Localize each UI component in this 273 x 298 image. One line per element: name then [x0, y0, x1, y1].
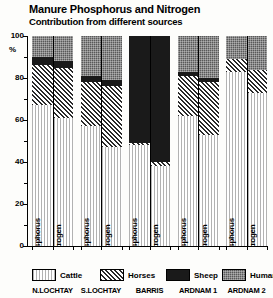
plot-area: 020406080100 % PhosphorusNitrogenPhospho…: [32, 36, 267, 246]
x-axis-line: [27, 246, 268, 247]
bar-group-s-lochtay[interactable]: PhosphorusNitrogen: [81, 36, 122, 246]
y-minor-tick-30: [24, 183, 28, 184]
segment-cattle: [102, 147, 122, 246]
x-tick: [150, 246, 151, 250]
x-tick: [73, 246, 74, 250]
segment-humans: [178, 36, 199, 72]
x-tick: [247, 246, 248, 250]
segment-horses: [129, 143, 150, 145]
segment-humans: [102, 36, 122, 80]
segment-horses: [102, 86, 122, 147]
x-tick: [81, 246, 82, 250]
segment-sheep: [32, 57, 53, 65]
legend-swatch-horses: [100, 269, 124, 281]
chart-title: Manure Phosphorus and Nitrogen: [29, 3, 200, 15]
y-tick-label-60: 60: [0, 116, 24, 124]
segment-horses: [81, 82, 102, 126]
segment-humans: [226, 36, 247, 59]
y-tick-label-80: 80: [0, 74, 24, 82]
bar-group-ardnam-2[interactable]: PhosphorusNitrogen: [226, 36, 267, 246]
chart-legend: CattleHorsesSheepHumans: [32, 268, 267, 284]
legend-label-sheep: Sheep: [194, 271, 218, 280]
x-tick: [129, 246, 130, 250]
legend-swatch-sheep: [166, 269, 190, 281]
segment-horses: [54, 68, 74, 118]
chart-subtitle: Contribution from different sources: [29, 16, 182, 27]
segment-horses: [178, 76, 199, 116]
x-tick: [226, 246, 227, 250]
x-tick: [32, 246, 33, 250]
segment-humans: [54, 36, 74, 61]
y-tick-label-100: 100: [0, 32, 24, 40]
y-minor-tick-50: [24, 141, 28, 142]
x-tick: [170, 246, 171, 250]
bar-s-lochtay-nitrogen[interactable]: Nitrogen: [101, 36, 122, 246]
legend-swatch-humans: [222, 269, 246, 281]
y-minor-tick-90: [24, 57, 28, 58]
bar-ardnam-1-phosphorus[interactable]: Phosphorus: [178, 36, 199, 246]
y-minor-tick-10: [24, 225, 28, 226]
x-tick: [178, 246, 179, 250]
segment-humans: [199, 36, 219, 78]
segment-cattle: [81, 126, 102, 246]
bar-group-ardnam-1[interactable]: PhosphorusNitrogen: [178, 36, 219, 246]
segment-cattle: [199, 135, 219, 246]
segment-humans: [81, 36, 102, 76]
x-axis-label-ardnam-1: ARDNAM 1: [172, 286, 225, 295]
segment-sheep: [102, 80, 122, 86]
segment-horses: [151, 162, 171, 166]
x-tick: [219, 246, 220, 250]
x-tick: [122, 246, 123, 250]
legend-item-horses[interactable]: Horses: [100, 268, 155, 282]
segment-sheep: [81, 76, 102, 82]
x-tick: [101, 246, 102, 250]
x-tick: [198, 246, 199, 250]
segment-cattle: [32, 105, 53, 246]
segment-horses: [226, 59, 247, 72]
legend-item-humans[interactable]: Humans: [222, 268, 273, 282]
legend-swatch-cattle: [32, 269, 56, 281]
y-minor-tick-70: [24, 99, 28, 100]
segment-cattle: [226, 72, 247, 246]
legend-label-horses: Horses: [128, 271, 155, 280]
x-axis-label-ardnam-2: ARDNAM 2: [220, 286, 273, 295]
segment-sheep: [178, 72, 199, 76]
segment-sheep: [199, 78, 219, 82]
legend-label-cattle: Cattle: [60, 271, 82, 280]
segment-humans: [32, 36, 53, 57]
bar-n-lochtay-phosphorus[interactable]: Phosphorus: [32, 36, 53, 246]
x-axis-label-n-lochtay: N.LOCHTAY: [26, 286, 79, 295]
segment-sheep: [54, 61, 74, 67]
legend-item-cattle[interactable]: Cattle: [32, 268, 82, 282]
x-tick: [53, 246, 54, 250]
bar-s-lochtay-phosphorus[interactable]: Phosphorus: [81, 36, 102, 246]
legend-item-sheep[interactable]: Sheep: [166, 268, 218, 282]
bar-ardnam-2-phosphorus[interactable]: Phosphorus: [226, 36, 247, 246]
x-axis-label-s-lochtay: S.LOCHTAY: [75, 286, 128, 295]
segment-cattle: [178, 116, 199, 246]
segment-sheep: [151, 36, 171, 162]
bar-barris-nitrogen[interactable]: Nitrogen: [150, 36, 171, 246]
segment-horses: [199, 82, 219, 135]
bar-ardnam-2-nitrogen[interactable]: Nitrogen: [247, 36, 268, 246]
segment-cattle: [151, 166, 171, 246]
x-axis-label-barris: BARRIS: [123, 286, 176, 295]
segment-sheep: [129, 36, 150, 143]
y-tick-label-40: 40: [0, 158, 24, 166]
bar-ardnam-1-nitrogen[interactable]: Nitrogen: [198, 36, 219, 246]
bar-n-lochtay-nitrogen[interactable]: Nitrogen: [53, 36, 74, 246]
bar-group-barris[interactable]: PhosphorusNitrogen: [129, 36, 170, 246]
bar-group-n-lochtay[interactable]: PhosphorusNitrogen: [32, 36, 73, 246]
bar-barris-phosphorus[interactable]: Phosphorus: [129, 36, 150, 246]
legend-label-humans: Humans: [250, 271, 273, 280]
segment-cattle: [248, 93, 268, 246]
y-tick-label-20: 20: [0, 200, 24, 208]
x-tick: [267, 246, 268, 250]
percent-symbol: %: [9, 45, 16, 54]
segment-cattle: [54, 118, 74, 246]
segment-humans: [248, 36, 268, 70]
y-tick-label-0: 0: [0, 242, 24, 250]
segment-horses: [32, 65, 53, 105]
segment-horses: [248, 70, 268, 93]
chart-root: Manure Phosphorus and Nitrogen Contribut…: [0, 0, 273, 298]
